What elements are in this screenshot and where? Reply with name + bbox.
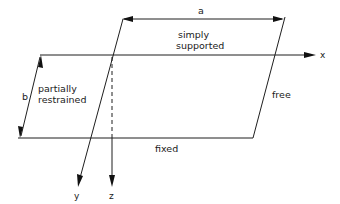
arrowhead-left-icon [122,16,133,22]
arrowhead-right-icon [273,16,284,22]
y-axis: y [74,19,123,201]
plate-diagram: a x simply supported y z free fixed b p [0,0,340,204]
z-axis-label: z [109,191,114,201]
edge-label-left-line1: partially [38,83,77,94]
edge-label-bottom: fixed [155,143,178,154]
y-arrowhead-icon [77,174,83,187]
x-axis: x [40,50,326,60]
edge-label-left-line2: restrained [38,94,86,105]
z-axis: z [109,57,115,201]
dimension-b-label: b [22,91,28,102]
dimension-a-label: a [198,5,204,16]
y-axis-label: y [74,191,80,201]
x-axis-label: x [320,50,326,60]
right-edge: free [253,17,291,138]
z-arrowhead-icon [109,175,115,187]
edge-label-right: free [272,89,291,100]
x-arrowhead-icon [304,52,316,58]
dimension-a: a [122,5,284,22]
edge-label-top-line2: supported [176,40,224,51]
edge-label-top-line1: simply [178,29,210,40]
bottom-edge: fixed [18,138,253,154]
